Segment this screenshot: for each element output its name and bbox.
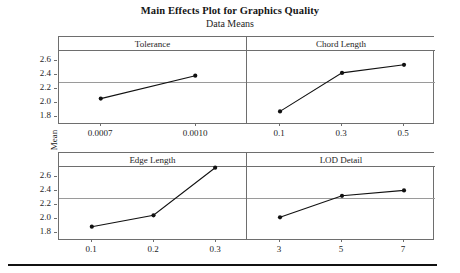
panel-header-chord-length: Chord Length (247, 37, 435, 51)
y-tick-label: 2.6 (27, 171, 51, 180)
panel-lod-detail (247, 167, 435, 240)
y-tick-label: 2.0 (27, 97, 51, 106)
footer-divider (8, 264, 437, 266)
y-tick-label: 2.2 (27, 83, 51, 92)
x-tick-mark (341, 239, 342, 242)
y-tick-mark (54, 218, 57, 219)
panel-tolerance (59, 51, 247, 124)
main-effects-plot: Mean Tolerance Chord Length Edge Length (58, 36, 434, 248)
x-tick-label: 0.2 (147, 245, 158, 254)
series-tolerance (59, 51, 246, 124)
x-tick-label: 0.1 (273, 129, 284, 138)
y-tick-label: 2.4 (27, 69, 51, 78)
y-tick-label: 2.0 (27, 213, 51, 222)
y-tick-mark (54, 88, 57, 89)
y-tick-mark (54, 60, 57, 61)
y-tick-label: 1.8 (27, 227, 51, 236)
y-axis-label: Mean (49, 130, 59, 151)
x-tick-mark (403, 239, 404, 242)
x-tick-label: 3 (277, 245, 282, 254)
y-tick-mark (54, 74, 57, 75)
y-tick-mark (54, 176, 57, 177)
series-chord-length (247, 51, 435, 124)
x-tick-label: 0.5 (397, 129, 408, 138)
series-lod-detail (247, 167, 435, 240)
panel-edge-length (59, 167, 247, 240)
y-tick-mark (54, 116, 57, 117)
x-tick-mark (91, 239, 92, 242)
panel-header-edge-length: Edge Length (59, 153, 247, 167)
x-tick-mark (153, 239, 154, 242)
x-tick-mark (100, 123, 101, 126)
x-tick-label: 0.0010 (183, 129, 208, 138)
y-tick-mark (54, 232, 57, 233)
y-tick-label: 2.4 (27, 185, 51, 194)
y-tick-label: 1.8 (27, 111, 51, 120)
y-tick-mark (54, 102, 57, 103)
x-tick-mark (403, 123, 404, 126)
x-tick-label: 0.3 (335, 129, 346, 138)
y-tick-mark (54, 204, 57, 205)
panel-header-tolerance: Tolerance (59, 37, 247, 51)
y-tick-mark (54, 190, 57, 191)
panel-header-lod-detail: LOD Detail (247, 153, 435, 167)
x-tick-mark (215, 239, 216, 242)
x-tick-label: 5 (339, 245, 344, 254)
panel-row-bottom: Edge Length LOD Detail (58, 152, 434, 240)
chart-subtitle: Data Means (0, 17, 460, 30)
chart-title-block: Main Effects Plot for Graphics Quality D… (0, 4, 460, 30)
x-tick-label: 7 (401, 245, 406, 254)
x-tick-label: 0.1 (85, 245, 96, 254)
x-tick-label: 0.3 (209, 245, 220, 254)
x-tick-label: 0.0007 (88, 129, 113, 138)
panel-chord-length (247, 51, 435, 124)
x-tick-mark (195, 123, 196, 126)
page-title: Main Effects Plot for Graphics Quality (0, 4, 460, 17)
y-tick-label: 2.6 (27, 55, 51, 64)
series-edge-length (59, 167, 246, 240)
y-tick-label: 2.2 (27, 199, 51, 208)
x-tick-mark (341, 123, 342, 126)
x-tick-mark (279, 239, 280, 242)
panel-row-top: Tolerance Chord Length (58, 36, 434, 124)
x-tick-mark (279, 123, 280, 126)
